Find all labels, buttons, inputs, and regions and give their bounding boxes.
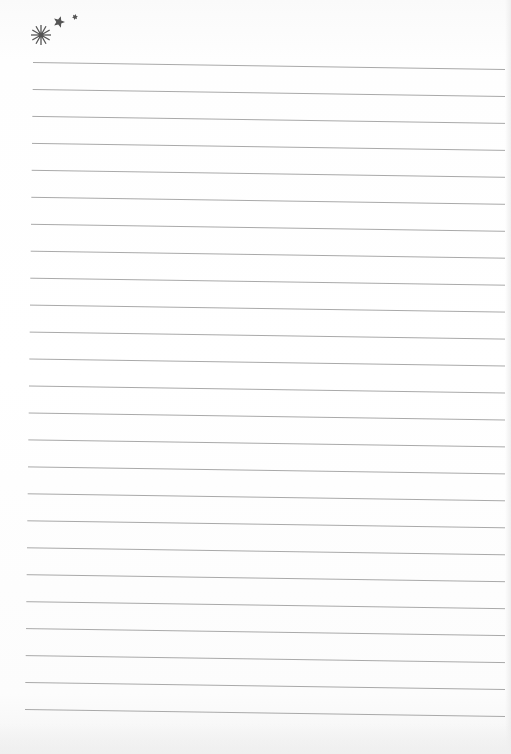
ruled-line <box>30 278 505 285</box>
ruled-line <box>33 63 505 70</box>
ruled-line <box>33 90 505 97</box>
ruled-line <box>25 710 505 717</box>
ruled-line <box>26 602 505 609</box>
starburst-icon <box>31 25 51 45</box>
five-point-star-icon <box>54 16 65 27</box>
ruled-line <box>31 224 505 231</box>
ruled-line <box>27 521 505 528</box>
ruled-line <box>25 683 505 690</box>
ruled-line <box>30 305 505 312</box>
ruled-line <box>29 413 505 420</box>
ruled-line <box>28 494 505 501</box>
ruled-line <box>32 116 505 123</box>
ruled-line <box>31 197 505 204</box>
ruled-line <box>29 359 505 366</box>
ruled-line <box>29 386 505 393</box>
star-decoration <box>0 0 120 60</box>
ruled-line <box>32 143 505 150</box>
ruled-line <box>27 575 505 582</box>
ruled-line <box>31 251 505 258</box>
ruled-line <box>30 332 505 339</box>
ruled-lines <box>0 0 511 754</box>
ruled-line <box>26 629 505 636</box>
ruled-line <box>28 440 505 447</box>
ruled-line <box>26 656 505 663</box>
ruled-line <box>27 548 505 555</box>
ruled-line <box>32 170 505 177</box>
ruled-line <box>28 467 505 474</box>
small-star-icon <box>72 14 78 20</box>
